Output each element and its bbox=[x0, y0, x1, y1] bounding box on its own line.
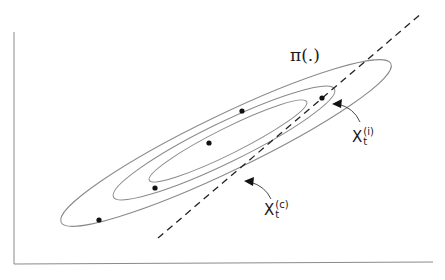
diagram-canvas bbox=[0, 0, 445, 280]
sample-point bbox=[206, 140, 211, 145]
x-i-sub: t bbox=[363, 137, 374, 147]
x-i-label: X(i)t bbox=[352, 127, 374, 147]
sample-points bbox=[96, 95, 324, 222]
x-c-label: X(c)t bbox=[264, 200, 289, 220]
sample-point bbox=[152, 185, 157, 190]
sample-point bbox=[96, 217, 101, 222]
x-i-base: X bbox=[352, 128, 362, 146]
contour-ellipses bbox=[49, 38, 403, 247]
sample-point bbox=[319, 95, 324, 100]
ellipse-outer bbox=[49, 38, 403, 247]
arrowhead-c bbox=[244, 177, 254, 186]
ellipse-middle bbox=[105, 71, 344, 215]
x-c-base: X bbox=[264, 201, 274, 219]
x-axis bbox=[14, 262, 433, 264]
x-c-sub: t bbox=[275, 210, 288, 220]
sample-point bbox=[239, 108, 244, 113]
pi-label: π(.) bbox=[290, 45, 320, 65]
arrowhead-i bbox=[332, 99, 342, 108]
